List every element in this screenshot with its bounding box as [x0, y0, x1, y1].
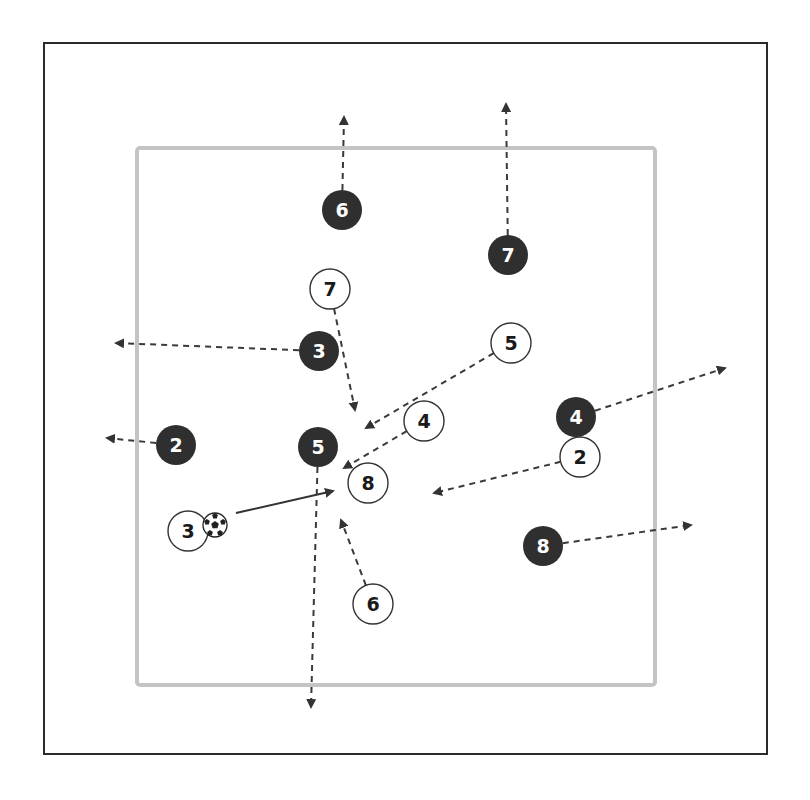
player-number: 4: [569, 406, 582, 428]
dark-player-8: 8: [523, 526, 563, 566]
run-arrow: [434, 462, 561, 493]
run-arrow: [344, 431, 407, 468]
dark-player-7: 7: [488, 235, 528, 275]
player-number: 6: [366, 593, 379, 615]
player-number: 8: [361, 472, 374, 494]
light-player-4: 4: [404, 401, 444, 441]
run-arrow: [342, 117, 344, 190]
light-player-2: 2: [560, 437, 600, 477]
soccer-ball-icon: [203, 513, 227, 537]
light-player-7: 7: [310, 269, 350, 309]
run-arrow: [506, 104, 508, 235]
dark-player-3: 3: [299, 331, 339, 371]
dark-player-2: 2: [156, 425, 196, 465]
player-number: 2: [169, 434, 182, 456]
run-arrow: [116, 343, 299, 350]
player-number: 4: [417, 410, 430, 432]
player-number: 6: [335, 199, 348, 221]
dark-player-4: 4: [556, 397, 596, 437]
player-number: 3: [181, 520, 194, 542]
run-arrow: [563, 525, 691, 543]
drill-diagram: 6732548 7542836: [0, 0, 810, 800]
player-number: 2: [573, 446, 586, 468]
light-player-8: 8: [348, 463, 388, 503]
light-player-5: 5: [491, 323, 531, 363]
player-number: 7: [323, 278, 336, 300]
light-team: 7542836: [168, 269, 600, 624]
run-arrow: [341, 520, 366, 585]
run-arrow: [107, 438, 156, 443]
player-number: 5: [504, 332, 517, 354]
dark-player-6: 6: [322, 190, 362, 230]
player-number: 5: [311, 436, 324, 458]
pass-arrow: [236, 491, 333, 513]
player-number: 7: [501, 244, 514, 266]
dark-team: 6732548: [156, 190, 596, 566]
light-player-3: 3: [168, 511, 208, 551]
pass-line: [236, 491, 333, 513]
player-number: 3: [312, 340, 325, 362]
run-arrow: [311, 467, 317, 707]
player-number: 8: [536, 535, 549, 557]
light-player-6: 6: [353, 584, 393, 624]
run-arrow: [595, 368, 725, 411]
dark-player-5: 5: [298, 427, 338, 467]
